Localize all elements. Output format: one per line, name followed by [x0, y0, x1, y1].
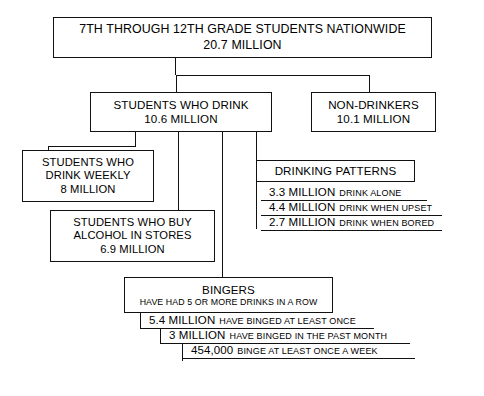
connector-branch-bingers-stem	[222, 132, 223, 277]
node-drinking-patterns-title: DRINKING PATTERNS	[275, 164, 397, 178]
connector-branch-weekly-elbow	[48, 146, 136, 147]
node-students-drink-weekly-line2: DRINK WEEKLY	[46, 169, 131, 183]
node-students-drink-weekly-line1: STUDENTS WHO	[42, 156, 134, 170]
connector-branch-weekly-stem	[135, 132, 136, 146]
node-students-buy-alcohol-stores-line1: STUDENTS WHO BUY	[73, 216, 191, 230]
pattern-row-2: 4.4 MILLION DRINK WHEN UPSET	[261, 201, 442, 216]
pattern-row-1-value: 3.3 MILLION	[269, 186, 335, 198]
node-students-buy-alcohol-stores: STUDENTS WHO BUY ALCOHOL IN STORES 6.9 M…	[50, 210, 215, 262]
node-students-who-drink: STUDENTS WHO DRINK 10.6 MILLION	[90, 92, 272, 132]
binge-row-2: 3 MILLION HAVE BINGED IN THE PAST MONTH	[161, 329, 410, 344]
node-non-drinkers-line1: NON-DRINKERS	[328, 98, 419, 112]
node-students-drink-weekly-line3: 8 MILLION	[61, 183, 116, 197]
binge-row-1: 5.4 MILLION HAVE BINGED AT LEAST ONCE	[141, 314, 374, 329]
node-total-students: 7TH THROUGH 12TH GRADE STUDENTS NATIONWI…	[53, 17, 432, 58]
pattern-row-3-value: 2.7 MILLION	[269, 216, 335, 228]
pattern-row-3: 2.7 MILLION DRINK WHEN BORED	[261, 216, 442, 231]
connector-to-drinkers	[176, 75, 177, 92]
connector-branch-stores-stem	[178, 132, 179, 210]
node-bingers: BINGERS HAVE HAD 5 OR MORE DRINKS IN A R…	[124, 277, 333, 313]
node-students-buy-alcohol-stores-line2: ALCOHOL IN STORES	[74, 229, 192, 243]
pattern-row-1-label: DRINK ALONE	[339, 188, 401, 198]
node-bingers-line2: HAVE HAD 5 OR MORE DRINKS IN A ROW	[140, 297, 318, 308]
node-total-students-line2: 20.7 MILLION	[203, 38, 281, 53]
pattern-row-2-value: 4.4 MILLION	[269, 201, 335, 213]
binge-row-2-value: 3 MILLION	[169, 329, 226, 341]
connector-root-stem	[175, 58, 176, 75]
binge-row-2-label: HAVE BINGED IN THE PAST MONTH	[230, 331, 388, 341]
binge-row-3-value: 454,000	[191, 344, 233, 356]
node-total-students-line1: 7TH THROUGH 12TH GRADE STUDENTS NATIONWI…	[79, 22, 406, 37]
binge-row-1-label: HAVE BINGED AT LEAST ONCE	[219, 316, 356, 326]
connector-to-nondrinkers	[369, 75, 370, 92]
node-non-drinkers: NON-DRINKERS 10.1 MILLION	[311, 92, 436, 132]
flowchart-canvas: 7TH THROUGH 12TH GRADE STUDENTS NATIONWI…	[0, 0, 484, 396]
node-students-buy-alcohol-stores-line3: 6.9 MILLION	[100, 243, 165, 257]
node-non-drinkers-line2: 10.1 MILLION	[337, 112, 410, 126]
pattern-row-1: 3.3 MILLION DRINK ALONE	[261, 186, 427, 201]
binge-row-3-label: BINGE AT LEAST ONCE A WEEK	[237, 346, 377, 356]
node-students-who-drink-line2: 10.6 MILLION	[144, 112, 217, 126]
binge-row-3: 454,000 BINGE AT LEAST ONCE A WEEK	[183, 344, 415, 359]
pattern-row-2-label: DRINK WHEN UPSET	[339, 203, 432, 213]
node-bingers-line1: BINGERS	[202, 283, 255, 297]
pattern-row-3-label: DRINK WHEN BORED	[339, 218, 434, 228]
node-students-drink-weekly: STUDENTS WHO DRINK WEEKLY 8 MILLION	[22, 150, 154, 202]
node-drinking-patterns: DRINKING PATTERNS	[256, 160, 415, 182]
connector-level1-bar	[176, 75, 370, 76]
node-students-who-drink-line1: STUDENTS WHO DRINK	[113, 98, 248, 112]
binge-row-1-value: 5.4 MILLION	[149, 314, 215, 326]
